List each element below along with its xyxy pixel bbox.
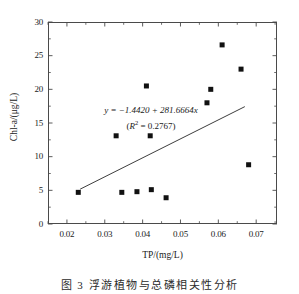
data-point [144, 83, 149, 88]
x-tick-label: 0.02 [47, 230, 87, 239]
equation-line: y = −1.4420 + 281.6664x [76, 105, 226, 117]
data-point [164, 195, 169, 200]
data-point [208, 87, 213, 92]
data-point [148, 133, 153, 138]
data-point [76, 190, 81, 195]
data-point [220, 42, 225, 47]
x-tick-label: 0.07 [236, 230, 276, 239]
figure-caption: 图 3 浮游植物与总磷相关性分析 [0, 279, 299, 294]
x-tick-label: 0.05 [160, 230, 200, 239]
data-point [114, 133, 119, 138]
x-tick-label: 0.04 [123, 230, 163, 239]
equation-text: y = −1.4420 + 281.6664x [104, 105, 198, 115]
data-point [239, 67, 244, 72]
y-tick-label: 0 [11, 220, 43, 229]
y-tick-label: 30 [11, 18, 43, 27]
x-axis-title: TP/(mg/L) [48, 250, 277, 260]
data-point [134, 189, 139, 194]
y-axis-title: Chl-a/(μg/L) [9, 57, 19, 177]
r-squared-value-text: = 0.2767) [138, 121, 175, 131]
figure-root: 051015202530 0.020.030.040.050.060.07 Ch… [0, 0, 299, 294]
data-point [149, 187, 154, 192]
x-tick-label: 0.03 [85, 230, 125, 239]
x-tick-label: 0.06 [198, 230, 238, 239]
data-point [246, 162, 251, 167]
data-point [119, 190, 124, 195]
r-squared-line: (R2 = 0.2767) [76, 117, 226, 133]
y-tick-label: 5 [11, 186, 43, 195]
regression-equation-annotation: y = −1.4420 + 281.6664x (R2 = 0.2767) [76, 105, 226, 132]
